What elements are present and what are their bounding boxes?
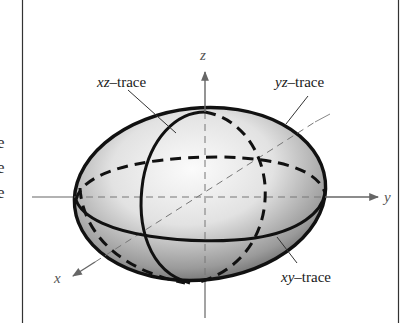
xz-trace-label: xz–trace — [96, 74, 146, 90]
y-axis-label: y — [382, 189, 391, 205]
margin-text-2: e — [0, 158, 5, 177]
ellipsoid — [66, 95, 335, 292]
figure-canvas: z y x xz–trace yz–trace xy–trace e e e — [0, 0, 403, 323]
z-axis-label: z — [199, 47, 206, 63]
yz-trace-label: yz–trace — [273, 74, 324, 90]
x-axis-label: x — [53, 270, 61, 286]
xy-trace-label: xy–trace — [280, 269, 331, 285]
x-axis-arrow — [73, 262, 95, 276]
ellipsoid-figure: z y x xz–trace yz–trace xy–trace e e e — [0, 0, 403, 323]
margin-text-1: e — [0, 133, 5, 152]
x-axis-back-tail — [315, 114, 330, 122]
yz-trace-leader — [286, 96, 308, 124]
margin-text-3: e — [0, 183, 5, 202]
